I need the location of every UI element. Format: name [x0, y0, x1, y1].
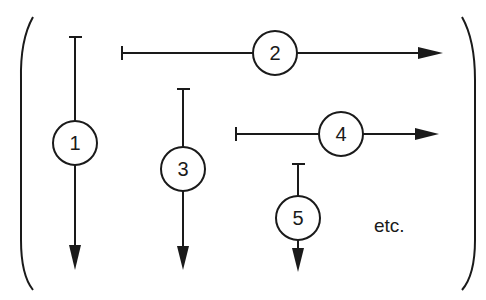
arrow-sequence-diagram: 1 2 3 4 5 etc.	[0, 0, 486, 300]
continuation-text: etc.	[374, 215, 405, 236]
arrow-1: 1	[53, 37, 97, 270]
arrow-2-arrowhead-icon	[418, 47, 443, 59]
arrow-4-label: 4	[335, 123, 346, 145]
arrow-3-label: 3	[177, 158, 188, 180]
left-parenthesis	[21, 17, 33, 290]
arrow-5-arrowhead-icon	[292, 248, 304, 272]
arrow-2: 2	[122, 31, 443, 75]
arrow-4: 4	[236, 112, 439, 156]
arrow-5-label: 5	[292, 207, 303, 229]
arrow-3-arrowhead-icon	[177, 246, 189, 270]
arrow-1-label: 1	[69, 132, 80, 154]
arrow-5: 5	[276, 164, 320, 272]
arrow-2-label: 2	[269, 42, 280, 64]
right-parenthesis	[462, 17, 475, 290]
arrow-4-arrowhead-icon	[415, 128, 439, 140]
arrow-1-arrowhead-icon	[69, 245, 81, 270]
arrow-3: 3	[161, 89, 205, 270]
